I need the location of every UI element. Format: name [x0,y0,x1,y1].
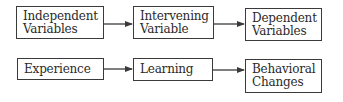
box-behavioral-changes: Behavioral Changes [245,59,322,93]
box-learning: Learning [133,58,213,81]
box-label-line: Variable [140,23,213,36]
box-experience: Experience [17,58,104,80]
box-label-line: Variables [252,25,321,38]
box-label-line: Experience [24,63,103,76]
box-independent-variables: Independent Variables [16,6,104,39]
box-label-line: Variables [23,23,103,36]
box-intervening-variable: Intervening Variable [133,6,214,39]
box-label-line: Changes [252,76,321,89]
box-dependent-variables: Dependent Variables [245,8,322,41]
box-label-line: Learning [140,63,212,76]
